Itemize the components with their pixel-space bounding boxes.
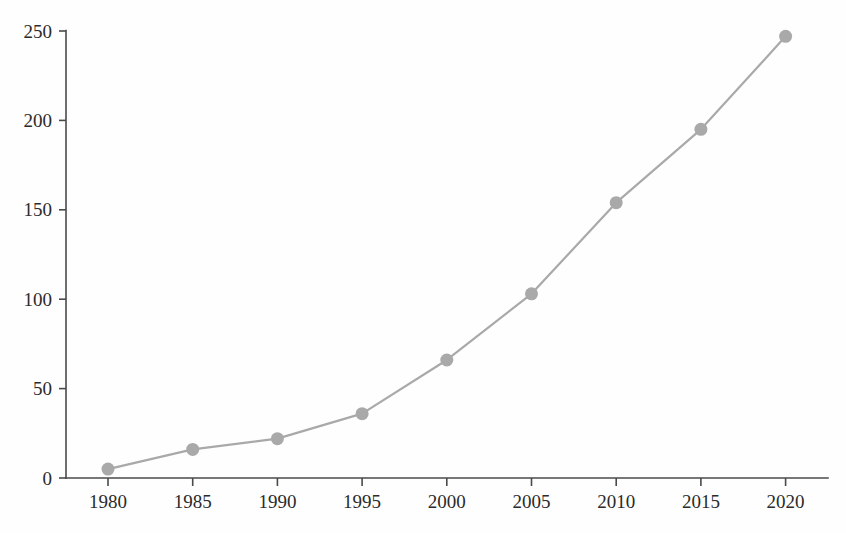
x-tick-label: 2020 xyxy=(767,491,805,512)
y-tick-label: 250 xyxy=(24,21,53,42)
y-tick-label: 200 xyxy=(24,110,53,131)
series-layer xyxy=(102,30,793,476)
x-tick-label: 2015 xyxy=(682,491,720,512)
data-point xyxy=(779,30,792,43)
x-axis: 198019851990199520002005201020152020 xyxy=(66,478,828,512)
x-tick-label: 2010 xyxy=(597,491,635,512)
y-tick-label: 50 xyxy=(33,378,52,399)
y-tick-label: 150 xyxy=(24,199,53,220)
data-point xyxy=(186,443,199,456)
line-chart: 050100150200250 198019851990199520002005… xyxy=(0,0,846,533)
x-tick-label: 1980 xyxy=(89,491,127,512)
chart-container: 050100150200250 198019851990199520002005… xyxy=(0,0,846,533)
x-tick-label: 2000 xyxy=(428,491,466,512)
x-tick-label: 1985 xyxy=(174,491,212,512)
data-point xyxy=(525,287,538,300)
data-point xyxy=(356,407,369,420)
data-point xyxy=(694,123,707,136)
data-point xyxy=(102,463,115,476)
x-tick-label: 2005 xyxy=(513,491,551,512)
data-point xyxy=(610,196,623,209)
y-axis: 050100150200250 xyxy=(24,21,67,489)
y-tick-label: 100 xyxy=(24,289,53,310)
x-tick-label: 1990 xyxy=(258,491,296,512)
series-line-series-1 xyxy=(108,36,786,469)
data-point xyxy=(440,353,453,366)
x-tick-label: 1995 xyxy=(343,491,381,512)
data-point xyxy=(271,432,284,445)
y-tick-label: 0 xyxy=(43,468,53,489)
